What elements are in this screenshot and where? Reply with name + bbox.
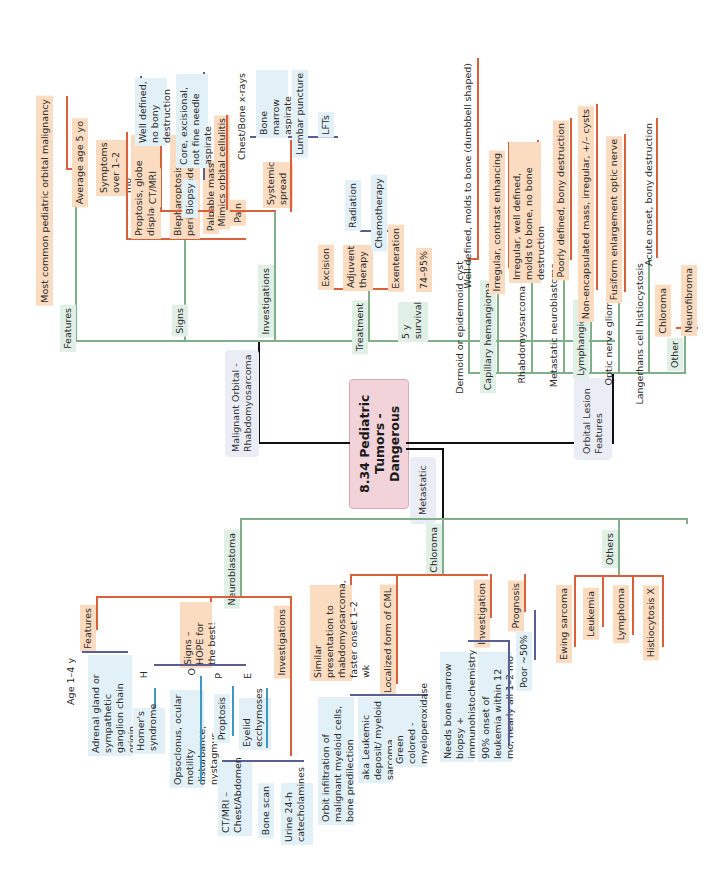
branch-line <box>396 574 398 684</box>
adjuvant-item: Radiation <box>345 180 361 231</box>
hope-detail-o: Opsoclonus, ocular motility disturbance,… <box>170 690 204 788</box>
systemic-item: Chest/Bone x-rays <box>234 70 250 163</box>
branch-line <box>96 596 98 630</box>
hope-letter-h: H <box>136 668 152 681</box>
rhabdo-sign-item: Pain <box>230 200 246 226</box>
adjuvant-item: Chemotherapy <box>371 175 387 252</box>
connector-line <box>442 448 444 518</box>
root-title: 8.34 Pediatric Tumors - Dangerous <box>357 380 402 508</box>
cml-item: Orbit infiltration of malignant myeloid … <box>318 697 354 825</box>
lesion-name: Langerhans cell histiocystosis <box>632 260 648 408</box>
branch-line <box>240 518 242 598</box>
branch-line <box>66 96 68 170</box>
branch-line <box>508 642 510 746</box>
branch-line <box>574 575 664 577</box>
systemic-item: LFTs <box>318 112 334 138</box>
biopsy-label: Biopsy <box>182 180 198 218</box>
excision: Excision <box>318 245 334 290</box>
chloroma-investigation-item: Needs bone marrow biopsy + immunohistoch… <box>440 652 474 762</box>
branch-line <box>154 664 246 666</box>
branch-line <box>477 58 479 260</box>
branch-line <box>350 574 488 576</box>
nb-investigations-label: Investigations <box>274 606 290 679</box>
branch-line <box>490 574 492 618</box>
category-malignant-orbital: Malignant Orbital - Rhabdomyosarcoma <box>225 350 259 457</box>
lesion-detail: Poorly defined, bony destruction <box>553 120 569 280</box>
nb-investigation-item: CT/MRI – Chest/Abdomen <box>218 762 252 836</box>
rhabdo-signs-label: Signs <box>172 305 188 337</box>
branch-line <box>82 651 128 653</box>
hope-letter-e: E <box>240 670 256 682</box>
category-orbital-lesion: Orbital Lesion Features <box>574 378 612 460</box>
category-label: Orbital Lesion Features <box>581 384 605 454</box>
biopsy-detail: Core, excisional, not fine needle aspira… <box>176 74 208 168</box>
survival-value: 74–95% <box>416 248 432 292</box>
others-label: Others <box>602 530 618 568</box>
lesion-name: Optic nerve glioma <box>601 292 617 389</box>
cml-item: Green colored - myeloperoxidase <box>392 697 426 767</box>
branch-line <box>648 258 650 374</box>
ct-mri-label: CT/MRI <box>145 168 161 207</box>
ct-mri-detail: Well defined, no bony destruction <box>135 78 167 146</box>
branch-line <box>624 134 626 292</box>
lesion-detail: Acute onset, bony destruction <box>641 120 657 269</box>
other-item: Neurofibroma <box>681 265 697 336</box>
branch-line <box>368 290 370 342</box>
branch-line <box>531 280 533 374</box>
others-item: Histiocytosis X <box>643 585 659 660</box>
branch-line <box>75 340 615 342</box>
others-item: Lymphoma <box>613 585 629 643</box>
lesion-detail: Fusiform enlargement optic nerve <box>606 136 622 303</box>
branch-line <box>274 210 276 342</box>
nb-feature-item: Age 1–4 y <box>63 655 79 708</box>
hope-letter-o: O <box>184 665 200 678</box>
survival-label: 5 y survival <box>398 302 428 342</box>
branch-line <box>534 610 536 660</box>
branch-line <box>126 132 128 240</box>
others-item: Ewing sarcoma <box>556 585 572 663</box>
hope-detail-p: Proptosis <box>214 694 230 743</box>
other-label: Other <box>667 338 683 371</box>
lesion-detail: Irregular, contrast enhancing <box>489 150 505 294</box>
lesion-detail: Non-encapsulated mass, irregular, +/– cy… <box>578 106 594 322</box>
other-item: Chloroma <box>655 285 671 337</box>
systemic-item: Lumbar puncture <box>292 70 308 158</box>
rhabdo-investigations-label: Investigations <box>258 265 274 338</box>
branch-line <box>570 118 572 260</box>
rhabdo-features-label: Features <box>60 305 76 352</box>
branch-line <box>290 596 292 756</box>
branch-line <box>662 575 664 647</box>
branch-line <box>686 518 688 524</box>
branch-line <box>618 518 620 576</box>
rhabdo-feature-item: Symptoms over 1–2 mo <box>96 140 126 196</box>
branch-line <box>226 115 228 210</box>
nb-feature-item: Adrenal gland or sympathetic ganglion ch… <box>88 655 132 756</box>
chloroma-similar: Similar presentation to rhabdomyosarcoma… <box>310 585 352 681</box>
chloroma-label: Chloroma <box>426 524 442 576</box>
branch-line <box>574 575 576 647</box>
lesion-name: Rhabdomyosarcoma <box>514 283 530 387</box>
branch-line <box>232 686 234 736</box>
systemic-spread-label: Systemic spread <box>263 162 293 208</box>
branch-line <box>524 574 526 612</box>
cml-label: Localized form of CML <box>380 585 396 696</box>
branch-line <box>632 575 634 635</box>
nb-features-label: Features <box>80 605 96 652</box>
connector-line <box>406 448 444 450</box>
category-label: Metastatic <box>417 466 429 516</box>
branch-line <box>266 688 268 748</box>
rhabdo-feature-item: Most common pediatric orbital malignancy <box>36 96 53 306</box>
root-node: 8.34 Pediatric Tumors - Dangerous <box>349 379 409 509</box>
branch-line <box>442 518 444 576</box>
cml-item: aka Leukemic deposit/ myeloid sarcoma <box>358 697 392 783</box>
category-metastatic: Metastatic <box>410 457 436 524</box>
lesion-detail: Well defined, molds to bone (dumbbell sh… <box>460 60 476 291</box>
treatment-label: Treatment <box>352 300 368 354</box>
branch-line <box>96 596 292 598</box>
branch-line <box>200 676 202 782</box>
nb-investigation-item: Bone scan <box>258 783 274 838</box>
hope-letter-p: P <box>211 670 227 682</box>
nb-signs-label: Signs – HOPE for the best! <box>180 602 212 668</box>
others-item: Leukemia <box>583 588 599 640</box>
chloroma-investigation-item: 90% onset of leukemia within 12 mo, near… <box>478 652 512 762</box>
